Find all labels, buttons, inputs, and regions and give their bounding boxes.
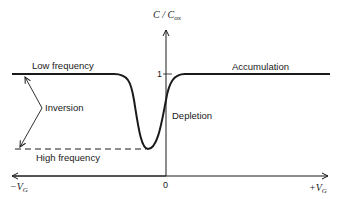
low-frequency-label: Low frequency <box>32 61 94 71</box>
cv-curve-diagram <box>0 0 338 199</box>
y-tick-label-one: 1 <box>157 70 162 79</box>
negative-vg-label: −VG <box>10 182 28 194</box>
high-frequency-label: High frequency <box>36 153 100 163</box>
inversion-arrow-lower <box>20 108 42 147</box>
accumulation-label: Accumulation <box>232 62 289 72</box>
depletion-label: Depletion <box>172 111 212 121</box>
inversion-arrow-upper <box>25 77 42 108</box>
inversion-label: Inversion <box>45 103 84 113</box>
origin-label: 0 <box>163 181 168 190</box>
positive-vg-label: +VG <box>309 183 327 195</box>
y-axis-label: C / Cox <box>153 10 181 22</box>
